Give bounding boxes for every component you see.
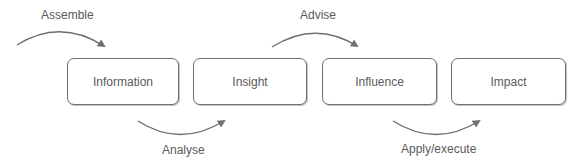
assemble-arrow	[17, 32, 104, 46]
transition-label-apply-execute: Apply/execute	[401, 142, 476, 156]
stage-insight: Insight	[193, 58, 307, 105]
advise-arrow	[272, 33, 357, 47]
transition-label-assemble: Assemble	[41, 8, 94, 22]
stage-label: Insight	[232, 75, 267, 89]
stage-label: Impact	[490, 75, 526, 89]
stage-information: Information	[67, 58, 179, 105]
transition-label-analyse: Analyse	[162, 143, 205, 157]
transition-label-advise: Advise	[300, 8, 336, 22]
stage-impact: Impact	[451, 58, 566, 105]
apply-execute-arrow	[393, 121, 479, 135]
analyse-arrow	[138, 121, 224, 135]
stage-label: Information	[93, 75, 153, 89]
stage-label: Influence	[355, 75, 404, 89]
stage-influence: Influence	[322, 58, 437, 105]
